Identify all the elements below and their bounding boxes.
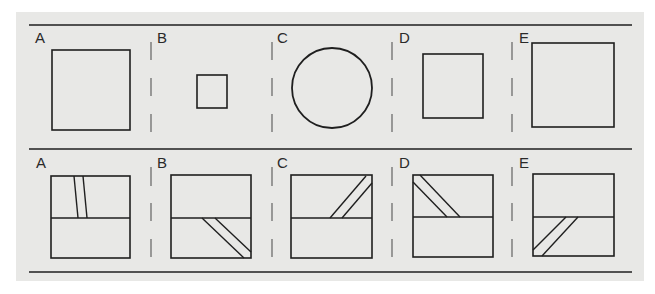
shape-e-square: [532, 43, 614, 127]
top-label-c: C: [277, 30, 288, 45]
strip-edge: [342, 183, 372, 218]
option-b-box: [171, 175, 251, 258]
strip-edge: [74, 176, 78, 218]
bottom-label-d: D: [399, 155, 410, 170]
strip-edge: [413, 182, 447, 217]
strip-edge: [83, 176, 87, 218]
option-a-box: [51, 176, 130, 258]
bottom-label-b: B: [157, 155, 167, 170]
top-row-shapes: [52, 43, 614, 130]
strip-edge: [202, 218, 244, 258]
shape-c-circle: [292, 48, 372, 128]
top-label-d: D: [399, 30, 410, 45]
shape-b-square: [197, 75, 227, 108]
top-label-e: E: [519, 30, 529, 45]
bottom-row-shapes: [51, 174, 614, 258]
bottom-label-e: E: [519, 155, 529, 170]
bottom-label-c: C: [277, 155, 288, 170]
strip-edge: [533, 217, 566, 250]
option-d-box: [413, 175, 493, 257]
option-c-box: [291, 175, 372, 258]
shape-a-square: [52, 50, 130, 130]
option-e-box: [533, 174, 614, 256]
figure-canvas: [0, 0, 655, 294]
bottom-row-dividers: [151, 167, 512, 257]
shape-d-square: [423, 54, 483, 118]
bottom-label-a: A: [36, 155, 46, 170]
top-label-b: B: [157, 30, 167, 45]
top-label-a: A: [35, 30, 45, 45]
